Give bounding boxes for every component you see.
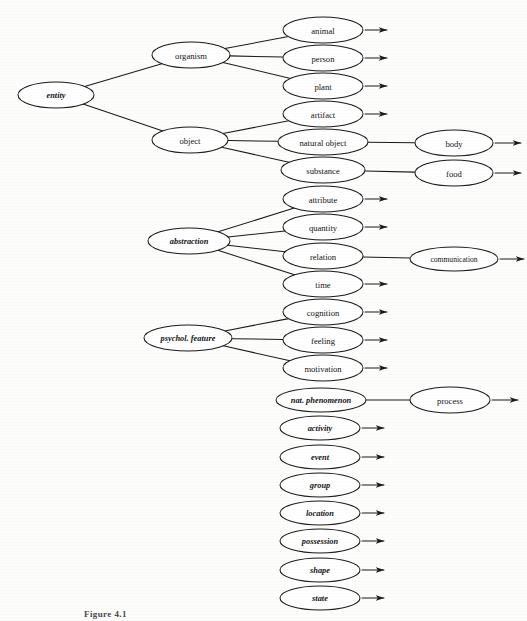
node-label-state: state bbox=[311, 594, 328, 603]
node-person[interactable]: person bbox=[283, 45, 363, 71]
node-label-group: group bbox=[309, 481, 330, 490]
node-attribute[interactable]: attribute bbox=[283, 186, 363, 212]
node-activity[interactable]: activity bbox=[280, 416, 360, 440]
node-substance[interactable]: substance bbox=[281, 157, 365, 183]
node-label-plant: plant bbox=[314, 82, 332, 92]
figure-caption: Figure 4.1 bbox=[84, 609, 127, 619]
node-label-shape: shape bbox=[309, 566, 330, 575]
edge-object-to-natural_object bbox=[228, 141, 278, 142]
open-arrow-layer bbox=[362, 30, 524, 598]
node-abstraction[interactable]: abstraction bbox=[148, 228, 230, 254]
node-feeling[interactable]: feeling bbox=[283, 327, 363, 353]
node-label-process: process bbox=[437, 396, 463, 406]
node-label-entity: entity bbox=[46, 91, 65, 100]
edge-psychol_feature-to-feeling bbox=[232, 339, 283, 340]
node-label-cognition: cognition bbox=[307, 308, 340, 318]
node-label-nat-phenomenon: nat. phenomenon bbox=[291, 396, 352, 405]
node-relation[interactable]: relation bbox=[283, 243, 363, 269]
edge-abstraction-to-relation bbox=[228, 245, 286, 251]
node-label-feeling: feeling bbox=[311, 336, 336, 346]
node-label-relation: relation bbox=[310, 252, 337, 262]
edge-object-to-artifact bbox=[223, 121, 289, 134]
node-plant[interactable]: plant bbox=[283, 73, 363, 99]
node-group[interactable]: group bbox=[280, 473, 360, 497]
node-entity[interactable]: entity bbox=[18, 82, 94, 108]
node-label-attribute: attribute bbox=[309, 195, 338, 205]
node-artifact[interactable]: artifact bbox=[283, 101, 363, 127]
node-label-communication: communication bbox=[430, 255, 477, 264]
node-animal[interactable]: animal bbox=[283, 17, 363, 43]
node-label-animal: animal bbox=[311, 26, 335, 36]
node-label-food: food bbox=[446, 169, 462, 179]
node-label-person: person bbox=[312, 54, 336, 64]
node-label-psychol-feature: psychol. feature bbox=[160, 334, 216, 343]
node-label-quantity: quantity bbox=[309, 223, 338, 233]
hierarchy-diagram: entityorganismobjectabstractionpsychol. … bbox=[0, 0, 527, 621]
edge-entity-to-object bbox=[83, 104, 163, 131]
node-label-location: location bbox=[306, 509, 334, 518]
node-communication[interactable]: communication bbox=[410, 247, 498, 271]
edge-psychol_feature-to-motivation bbox=[223, 346, 290, 361]
edge-substance-to-food bbox=[365, 171, 415, 172]
node-label-motivation: motivation bbox=[304, 364, 342, 374]
node-label-event: event bbox=[311, 453, 330, 462]
figure-container: entityorganismobjectabstractionpsychol. … bbox=[0, 0, 527, 621]
edge-organism-to-animal bbox=[225, 37, 289, 49]
node-label-abstraction: abstraction bbox=[170, 237, 209, 246]
edge-object-to-substance bbox=[222, 147, 289, 162]
node-nat-phenomenon[interactable]: nat. phenomenon bbox=[276, 388, 366, 412]
node-body[interactable]: body bbox=[415, 130, 493, 156]
node-label-possession: possession bbox=[301, 537, 339, 546]
edge-psychol_feature-to-cognition bbox=[225, 319, 289, 331]
node-location[interactable]: location bbox=[280, 501, 360, 525]
node-shape[interactable]: shape bbox=[280, 558, 360, 582]
node-object[interactable]: object bbox=[152, 127, 228, 153]
node-label-substance: substance bbox=[306, 166, 340, 176]
node-label-organism: organism bbox=[175, 51, 207, 61]
node-motivation[interactable]: motivation bbox=[283, 355, 363, 381]
node-label-object: object bbox=[180, 136, 202, 146]
node-cognition[interactable]: cognition bbox=[283, 299, 363, 325]
node-label-artifact: artifact bbox=[311, 110, 336, 120]
node-psychol-feature[interactable]: psychol. feature bbox=[144, 325, 232, 351]
node-natural-object[interactable]: natural object bbox=[278, 129, 368, 155]
node-organism[interactable]: organism bbox=[152, 42, 230, 68]
node-possession[interactable]: possession bbox=[280, 529, 360, 553]
node-state[interactable]: state bbox=[280, 586, 360, 610]
edge-layer bbox=[83, 37, 415, 400]
edge-relation-to-communication bbox=[363, 257, 410, 258]
node-food[interactable]: food bbox=[415, 160, 493, 186]
edge-entity-to-organism bbox=[85, 64, 162, 87]
node-label-activity: activity bbox=[308, 424, 333, 433]
edge-abstraction-to-quantity bbox=[228, 231, 285, 237]
node-quantity[interactable]: quantity bbox=[283, 214, 363, 240]
node-time[interactable]: time bbox=[283, 271, 363, 297]
edge-organism-to-person bbox=[230, 56, 283, 57]
node-label-body: body bbox=[445, 139, 463, 149]
node-label-natural-object: natural object bbox=[299, 138, 347, 148]
edge-organism-to-plant bbox=[223, 62, 291, 78]
node-label-time: time bbox=[315, 280, 330, 290]
node-event[interactable]: event bbox=[280, 445, 360, 469]
node-process[interactable]: process bbox=[410, 387, 490, 413]
